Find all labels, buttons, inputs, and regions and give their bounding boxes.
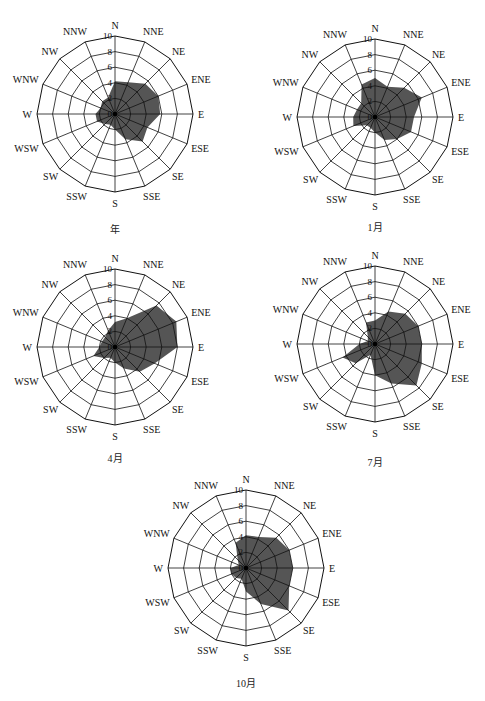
radial-tick-label: 6 bbox=[368, 292, 373, 302]
direction-label-wnw: WNW bbox=[273, 304, 300, 315]
direction-label-nnw: NNW bbox=[63, 259, 87, 270]
direction-label-ssw: SSW bbox=[326, 421, 347, 432]
direction-label-wsw: WSW bbox=[14, 143, 39, 154]
direction-label-sw: SW bbox=[43, 171, 59, 182]
direction-label-s: S bbox=[243, 652, 249, 663]
direction-label-nne: NNE bbox=[143, 259, 164, 270]
direction-label-wsw: WSW bbox=[274, 373, 299, 384]
direction-label-ssw: SSW bbox=[326, 194, 347, 205]
direction-label-w: W bbox=[154, 563, 164, 574]
direction-label-ese: ESE bbox=[451, 146, 469, 157]
radial-tick-label: 2 bbox=[368, 96, 373, 106]
radial-tick-label: 0 bbox=[108, 342, 113, 352]
direction-label-ssw: SSW bbox=[197, 645, 218, 656]
radial-tick-label: 8 bbox=[108, 47, 113, 57]
spoke bbox=[320, 117, 375, 172]
direction-label-s: S bbox=[372, 428, 378, 439]
wind-rose-july-svg: 0246810NNNENEENEEESESESSESSSWSWWSWWWNWNW… bbox=[273, 250, 471, 439]
radial-tick-label: 8 bbox=[368, 50, 373, 60]
direction-label-sse: SSE bbox=[403, 194, 420, 205]
wind-rose-january-svg: 0246810NNNENEENEEESESESSESSSWSWWSWWWNWNW… bbox=[273, 23, 471, 212]
direction-label-se: SE bbox=[432, 174, 444, 185]
direction-label-ne: NE bbox=[172, 279, 185, 290]
wind-rose-april-svg: 0246810NNNENEENEEESESESSESSSWSWWSWWWNWNW… bbox=[13, 253, 211, 442]
direction-label-sw: SW bbox=[303, 401, 319, 412]
direction-label-ne: NE bbox=[172, 46, 185, 57]
direction-label-w: W bbox=[283, 339, 293, 350]
radial-tick-label: 6 bbox=[108, 295, 113, 305]
radial-tick-label: 10 bbox=[363, 34, 373, 44]
radial-tick-label: 2 bbox=[108, 326, 113, 336]
direction-label-ne: NE bbox=[432, 276, 445, 287]
direction-label-sse: SSE bbox=[403, 421, 420, 432]
direction-label-nw: NW bbox=[41, 279, 58, 290]
direction-label-wsw: WSW bbox=[145, 597, 170, 608]
spoke bbox=[320, 344, 375, 399]
radial-tick-label: 10 bbox=[103, 264, 113, 274]
direction-label-nne: NNE bbox=[274, 480, 295, 491]
radial-tick-label: 4 bbox=[108, 311, 113, 321]
radial-tick-label: 6 bbox=[368, 65, 373, 75]
direction-label-s: S bbox=[372, 201, 378, 212]
center-dot bbox=[373, 342, 377, 346]
direction-label-nne: NNE bbox=[403, 29, 424, 40]
direction-label-nnw: NNW bbox=[323, 29, 347, 40]
radial-tick-label: 0 bbox=[239, 563, 244, 573]
center-dot bbox=[113, 112, 117, 116]
center-dot bbox=[373, 115, 377, 119]
direction-label-sw: SW bbox=[303, 174, 319, 185]
direction-label-wsw: WSW bbox=[14, 376, 39, 387]
direction-label-n: N bbox=[242, 474, 249, 485]
radial-tick-label: 8 bbox=[239, 501, 244, 511]
direction-label-e: E bbox=[458, 339, 464, 350]
direction-label-ene: ENE bbox=[322, 528, 341, 539]
direction-label-se: SE bbox=[432, 401, 444, 412]
direction-label-n: N bbox=[111, 20, 118, 31]
direction-label-ene: ENE bbox=[451, 77, 470, 88]
wind-rose-october-svg: 0246810NNNENEENEEESESESSESSSWSWWSWWWNWNW… bbox=[144, 474, 342, 663]
radial-tick-label: 2 bbox=[108, 93, 113, 103]
radial-tick-label: 4 bbox=[368, 81, 373, 91]
direction-label-ne: NE bbox=[432, 49, 445, 60]
radial-tick-label: 4 bbox=[108, 78, 113, 88]
radial-tick-label: 4 bbox=[239, 532, 244, 542]
direction-label-sse: SSE bbox=[143, 191, 160, 202]
direction-label-wnw: WNW bbox=[13, 74, 40, 85]
direction-label-ese: ESE bbox=[322, 597, 340, 608]
direction-label-nnw: NNW bbox=[194, 480, 218, 491]
direction-label-nw: NW bbox=[301, 49, 318, 60]
radial-tick-label: 8 bbox=[108, 280, 113, 290]
radial-tick-label: 10 bbox=[234, 485, 244, 495]
direction-label-ssw: SSW bbox=[66, 191, 87, 202]
radial-tick-label: 4 bbox=[368, 308, 373, 318]
direction-label-wnw: WNW bbox=[273, 77, 300, 88]
radial-tick-label: 2 bbox=[239, 547, 244, 557]
wind-rose-annual-svg: 0246810NNNENEENEEESESESSESSSWSWWSWWWNWNW… bbox=[13, 20, 211, 209]
direction-label-e: E bbox=[458, 112, 464, 123]
radial-tick-label: 10 bbox=[103, 31, 113, 41]
direction-label-wsw: WSW bbox=[274, 146, 299, 157]
direction-label-e: E bbox=[198, 109, 204, 120]
direction-label-n: N bbox=[111, 253, 118, 264]
spoke bbox=[60, 347, 115, 402]
direction-label-s: S bbox=[112, 431, 118, 442]
direction-label-n: N bbox=[371, 23, 378, 34]
direction-label-nne: NNE bbox=[403, 256, 424, 267]
radial-tick-label: 0 bbox=[108, 109, 113, 119]
direction-label-e: E bbox=[198, 342, 204, 353]
spoke bbox=[191, 568, 246, 623]
radial-tick-label: 0 bbox=[368, 339, 373, 349]
direction-label-w: W bbox=[23, 342, 33, 353]
direction-label-n: N bbox=[371, 250, 378, 261]
direction-label-ssw: SSW bbox=[66, 424, 87, 435]
radial-tick-label: 10 bbox=[363, 261, 373, 271]
direction-label-ne: NE bbox=[303, 500, 316, 511]
radial-tick-label: 0 bbox=[368, 112, 373, 122]
direction-label-ene: ENE bbox=[191, 74, 210, 85]
direction-label-ese: ESE bbox=[191, 376, 209, 387]
direction-label-sse: SSE bbox=[274, 645, 291, 656]
radial-tick-label: 6 bbox=[239, 516, 244, 526]
radial-tick-label: 6 bbox=[108, 62, 113, 72]
direction-label-sw: SW bbox=[43, 404, 59, 415]
direction-label-se: SE bbox=[172, 171, 184, 182]
